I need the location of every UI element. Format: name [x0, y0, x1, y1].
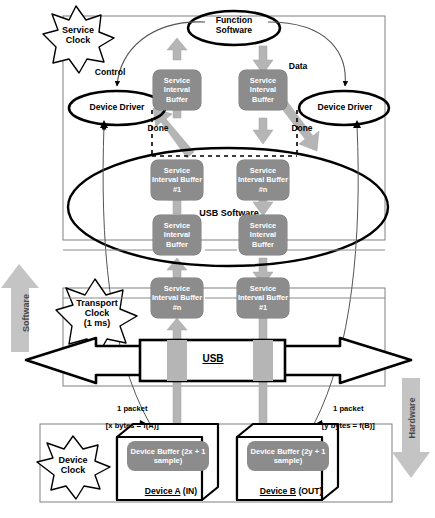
- sib-usb-right-2: Service Interval Buffer: [239, 215, 287, 255]
- sib-xport-right-1: Service Interval Buffer #1: [237, 278, 289, 318]
- usb-software-ellipse: [68, 148, 388, 266]
- device-driver-right-ellipse: [299, 91, 389, 125]
- sib-usb-left-1: Service Interval Buffer #1: [151, 160, 203, 200]
- device-b-buffer: Device Buffer (2y + 1 sample): [247, 441, 329, 471]
- sib-top-left: Service Interval Buffer: [153, 70, 201, 110]
- device-driver-left-ellipse: [69, 91, 165, 125]
- diagram-vector-layer: [0, 0, 435, 518]
- sib-top-right: Service Interval Buffer: [239, 70, 287, 110]
- sib-xport-left-n: Service Interval Buffer #n: [151, 278, 203, 318]
- software-domain-arrow: [1, 264, 39, 344]
- device-clock-star: [37, 436, 110, 499]
- sib-usb-left-2: Service Interval Buffer: [153, 215, 201, 255]
- hardware-domain-arrow-shaft: [402, 378, 420, 456]
- device-a-buffer: Device Buffer (2x + 1 sample): [127, 441, 209, 471]
- sib-usb-right-n: Service Interval Buffer #n: [237, 160, 289, 200]
- diagram-canvas: Service Clock Function Software Control …: [0, 0, 435, 518]
